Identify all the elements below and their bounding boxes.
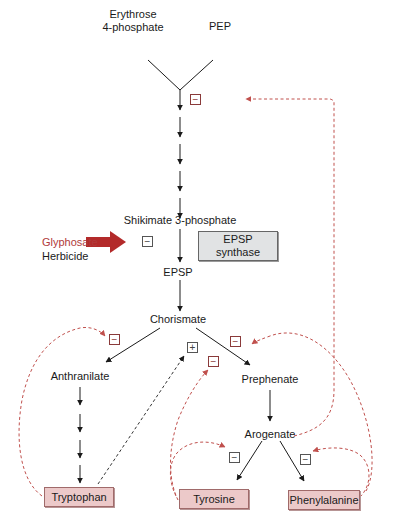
product-tyrosine: Tyrosine (179, 489, 249, 509)
minus-icon-anthranilate-branch: − (109, 334, 120, 345)
epsp-synthase-box: EPSP synthase (198, 231, 278, 261)
phenylalanine-label: Phenylalanine (289, 494, 358, 507)
tryptophan-label: Tryptophan (51, 491, 106, 504)
product-tryptophan: Tryptophan (44, 487, 114, 507)
node-erythrose-4-phosphate: Erythrose 4-phosphate (102, 8, 163, 34)
convergence-lines (148, 60, 213, 90)
main-chain-arrows (80, 90, 304, 483)
feedback-lines (19, 99, 372, 500)
node-prephenate: Prephenate (242, 373, 299, 386)
activation-line (98, 356, 184, 484)
plus-icon-tryptophan-activation: + (187, 342, 198, 353)
pathway-diagram (0, 0, 394, 530)
minus-icon-tyrosine-arogenate: − (229, 452, 240, 463)
herbicide-label: Herbicide (42, 250, 88, 263)
tyrosine-label: Tyrosine (193, 493, 235, 506)
node-pep: PEP (209, 20, 231, 33)
product-phenylalanine: Phenylalanine (288, 490, 360, 510)
minus-icon-phenylalanine-arogenate: − (300, 454, 311, 465)
epsp-synthase-label: EPSP synthase (216, 233, 260, 259)
minus-icon-tyrosine-prephenate: − (208, 356, 219, 367)
minus-icon-phenylalanine-prephenate: − (230, 336, 241, 347)
node-shikimate-3-phosphate: Shikimate 3-phosphate (124, 214, 237, 227)
node-epsp: EPSP (163, 266, 192, 279)
node-arogenate: Arogenate (245, 428, 296, 441)
node-chorismate: Chorismate (150, 313, 206, 326)
glyphosate-label: Glyphosate (42, 236, 98, 249)
minus-icon-dahp: − (190, 94, 201, 105)
minus-icon-glyphosate: − (142, 236, 153, 247)
node-anthranilate: Anthranilate (51, 370, 110, 383)
